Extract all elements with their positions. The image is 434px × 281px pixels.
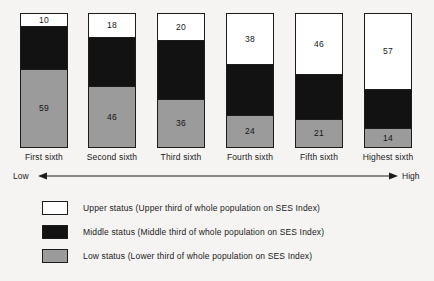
- stacked-bar: 10 31 59: [20, 13, 68, 148]
- segment-upper: 18: [89, 14, 135, 38]
- segment-value-label: 36: [176, 119, 186, 128]
- segment-low: 46: [89, 86, 135, 147]
- segment-middle: 29: [365, 90, 411, 129]
- segment-low: 14: [365, 128, 411, 147]
- legend-label-low-status: Low status (Lower third of whole populat…: [83, 251, 312, 261]
- segment-middle: 38: [227, 65, 273, 116]
- segment-upper: 46: [296, 14, 342, 75]
- axis-label-high: High: [402, 171, 419, 181]
- segment-value-label: 46: [314, 40, 324, 49]
- stacked-bar: 46 33 21: [295, 13, 343, 148]
- segment-value-label: 24: [245, 127, 255, 136]
- segment-low: 36: [158, 99, 204, 147]
- axis-double-arrow-icon: [38, 171, 398, 185]
- legend-swatch-low-icon: [42, 249, 68, 263]
- bar-group-first-sixth: 10 31 59: [20, 13, 68, 148]
- segment-middle: 33: [296, 75, 342, 119]
- segment-upper: 38: [227, 14, 273, 65]
- segment-value-label: 21: [314, 129, 324, 138]
- segment-middle: 31: [21, 27, 67, 68]
- stacked-bar: 18 36 46: [88, 13, 136, 148]
- legend-label-middle-status: Middle status (Middle third of whole pop…: [83, 227, 324, 237]
- axis-label-low: Low: [13, 171, 29, 181]
- segment-value-label: 59: [39, 104, 49, 113]
- bar-group-fifth-sixth: 46 33 21: [295, 13, 343, 148]
- stacked-bar: 20 44 36: [157, 13, 205, 148]
- segment-value-label: 46: [107, 113, 117, 122]
- legend-item-middle-status: Middle status (Middle third of whole pop…: [42, 224, 324, 239]
- legend-label-upper-status: Upper status (Upper third of whole popul…: [83, 203, 320, 213]
- legend-item-upper-status: Upper status (Upper third of whole popul…: [42, 200, 320, 215]
- segment-upper: 20: [158, 14, 204, 41]
- bar-group-highest-sixth: 57 29 14: [364, 13, 412, 148]
- plot-area: 10 31 59 18 36 46: [0, 0, 434, 160]
- stacked-bar-chart-figure: 10 31 59 18 36 46: [0, 0, 434, 281]
- bar-group-second-sixth: 18 36 46: [88, 13, 136, 148]
- stacked-bar: 57 29 14: [364, 13, 412, 148]
- segment-upper: 10: [21, 14, 67, 27]
- segment-value-label: 57: [383, 47, 393, 56]
- bar-group-fourth-sixth: 38 38 24: [226, 13, 274, 148]
- bar-group-third-sixth: 20 44 36: [157, 13, 205, 148]
- legend-item-low-status: Low status (Lower third of whole populat…: [42, 248, 312, 263]
- low-high-axis: Low High: [0, 168, 434, 190]
- segment-upper: 57: [365, 14, 411, 90]
- segment-middle: 44: [158, 41, 204, 100]
- segment-middle: 36: [89, 38, 135, 86]
- segment-value-label: 20: [176, 23, 186, 32]
- segment-low: 24: [227, 115, 273, 147]
- segment-value-label: 38: [245, 35, 255, 44]
- segment-low: 21: [296, 119, 342, 147]
- segment-value-label: 14: [383, 134, 393, 143]
- legend-swatch-middle-icon: [42, 225, 68, 239]
- segment-value-label: 18: [107, 21, 117, 30]
- segment-low: 59: [21, 69, 67, 147]
- category-label-highest-sixth: Highest sixth: [345, 152, 431, 162]
- stacked-bar: 38 38 24: [226, 13, 274, 148]
- legend-swatch-upper-icon: [42, 201, 68, 215]
- legend: Upper status (Upper third of whole popul…: [0, 196, 434, 274]
- segment-value-label: 10: [39, 16, 49, 25]
